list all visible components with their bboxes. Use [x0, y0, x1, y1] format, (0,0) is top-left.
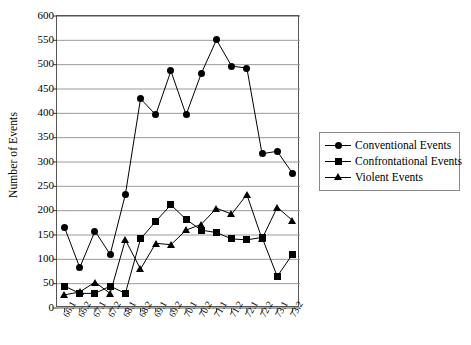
y-axis-tick-label: 550: [38, 34, 55, 45]
data-point-circle: [137, 95, 144, 102]
data-markers-layer: [57, 16, 300, 308]
data-point-triangle: [273, 204, 281, 211]
legend-label: Violent Events: [355, 171, 423, 184]
data-point-square: [274, 273, 281, 280]
data-point-circle: [61, 224, 68, 231]
data-point-circle: [289, 170, 296, 177]
y-axis-tick-label: 600: [38, 10, 55, 21]
legend-label: Conventional Events: [355, 139, 451, 152]
data-point-square: [152, 218, 159, 225]
data-point-circle: [183, 111, 190, 118]
legend-marker-circle-icon: [325, 138, 351, 152]
data-point-square: [91, 290, 98, 297]
data-point-circle: [107, 251, 114, 258]
data-point-circle: [76, 264, 83, 271]
y-axis-tick-label: 50: [43, 277, 54, 288]
data-point-triangle: [121, 236, 129, 243]
y-axis-tick-label: 400: [38, 107, 55, 118]
legend-item[interactable]: Confrontational Events: [325, 153, 452, 169]
data-point-triangle: [106, 290, 114, 297]
y-axis-tick-label: 150: [38, 229, 55, 240]
data-point-square: [335, 158, 342, 165]
data-point-triangle: [136, 265, 144, 272]
y-axis-tick-label: 300: [38, 156, 55, 167]
y-axis-tick-label: 450: [38, 83, 55, 94]
legend-item[interactable]: Violent Events: [325, 169, 452, 185]
data-point-square: [213, 229, 220, 236]
data-point-triangle: [258, 235, 266, 242]
data-point-circle: [91, 228, 98, 235]
legend-label: Confrontational Events: [355, 155, 462, 168]
data-point-square: [228, 235, 235, 242]
data-point-triangle: [91, 279, 99, 286]
data-point-circle: [152, 111, 159, 118]
data-point-square: [289, 251, 296, 258]
chart-figure: Number of Events 05010015020025030035040…: [0, 0, 471, 345]
data-point-square: [183, 216, 190, 223]
data-point-triangle: [182, 226, 190, 233]
y-axis-tick-label: 500: [38, 58, 55, 69]
data-point-circle: [274, 148, 281, 155]
data-point-circle: [335, 142, 342, 149]
data-point-triangle: [212, 205, 220, 212]
legend: Conventional EventsConfrontational Event…: [319, 132, 460, 191]
data-point-triangle: [197, 221, 205, 228]
data-point-square: [137, 235, 144, 242]
data-point-circle: [259, 150, 266, 157]
data-point-triangle: [76, 288, 84, 295]
plot-area: [56, 15, 299, 307]
data-point-circle: [213, 36, 220, 43]
data-point-circle: [228, 63, 235, 70]
data-point-triangle: [288, 217, 296, 224]
y-axis-tick-label: 200: [38, 204, 55, 215]
data-point-circle: [167, 67, 174, 74]
y-axis-title: Number of Events: [2, 0, 24, 310]
data-point-triangle: [334, 173, 342, 180]
y-axis-title-text: Number of Events: [7, 112, 19, 198]
data-point-triangle: [243, 191, 251, 198]
data-point-square: [243, 236, 250, 243]
data-point-triangle: [227, 210, 235, 217]
y-axis-tick-label: 350: [38, 131, 55, 142]
data-point-circle: [122, 191, 129, 198]
data-point-circle: [198, 70, 205, 77]
legend-marker-triangle-icon: [325, 170, 351, 184]
y-axis-tick-label: 100: [38, 253, 55, 264]
y-axis-tick-label: 0: [49, 302, 55, 313]
data-point-square: [61, 283, 68, 290]
y-axis-tick-labels: 050100150200250300350400450500550600: [22, 0, 54, 345]
data-point-square: [107, 283, 114, 290]
data-point-circle: [243, 65, 250, 72]
data-point-square: [167, 201, 174, 208]
data-point-triangle: [152, 240, 160, 247]
data-point-square: [122, 290, 129, 297]
data-point-triangle: [60, 291, 68, 298]
legend-item[interactable]: Conventional Events: [325, 137, 452, 153]
data-point-square: [198, 227, 205, 234]
legend-marker-square-icon: [325, 154, 351, 168]
y-axis-tick-label: 250: [38, 180, 55, 191]
data-point-triangle: [167, 241, 175, 248]
